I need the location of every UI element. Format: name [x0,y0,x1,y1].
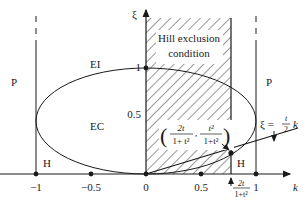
x-marker-num: 2t [238,179,245,188]
line-eq-den: 2 [284,125,288,134]
point-paren-open: ( [160,123,167,148]
x-axis-label: k [293,181,299,193]
region-H-left: H [43,157,51,169]
point-den1: 1+ t² [172,136,189,146]
point-comma: , [195,128,197,138]
point-num2: t² [208,123,214,133]
region-P-left: P [11,76,17,88]
point-den2: 1+t² [204,136,219,146]
x-tick-neg1: −1 [30,181,42,193]
dot-k-neg05 [89,172,94,177]
x-tick-neg05: −0.5 [81,181,101,193]
point-paren-close: ) [223,123,230,148]
y-tick-1: 1 [136,61,142,73]
region-P-right: P [266,76,272,88]
x-tick-05: 0.5 [194,181,208,193]
region-EI: EI [90,58,101,70]
dot-xi-1 [144,66,149,71]
y-axis-label: ξ [132,8,137,21]
dot-k-neg1 [34,172,39,177]
dot-k-1 [254,172,259,177]
hill-label-line2: condition [168,47,210,59]
x-tick-0: 0 [143,181,149,193]
y-tick-05: 0.5 [127,108,141,120]
line-eq-num: t [285,114,288,123]
point-num1: 2t [177,123,185,133]
x-tick-1: 1 [253,181,259,193]
dot-k-05 [199,172,204,177]
region-EC: EC [90,120,104,132]
x-marker-den: 1+t² [234,190,248,199]
region-H-right: H [237,157,245,169]
diagram-canvas: Hill exclusion condition ξ k −1 −0.5 0 0… [0,0,306,203]
dot-intersection [228,150,233,155]
dot-origin [144,172,149,177]
line-eq-k: k [293,118,299,130]
line-eq-lhs: ξ = [260,118,274,131]
hill-label-line1: Hill exclusion [158,32,221,44]
